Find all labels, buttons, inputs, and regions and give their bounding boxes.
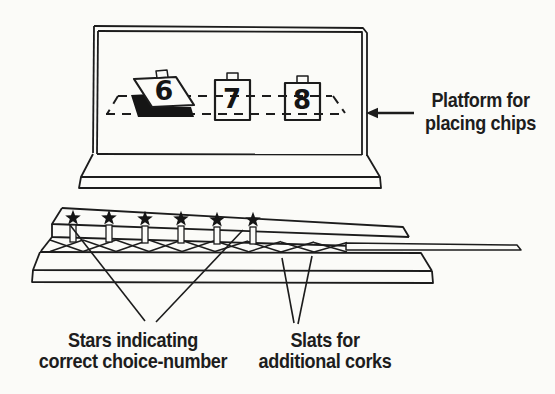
base-board <box>32 252 433 283</box>
star-icon <box>173 211 189 226</box>
card-digit-7: 7 <box>223 84 241 114</box>
star-icon <box>101 210 117 225</box>
cork-slat <box>346 243 521 250</box>
platform-label-line2: placing chips <box>418 111 543 134</box>
star-icon <box>209 212 225 227</box>
slats-leader-line <box>298 256 312 324</box>
figure-canvas: 6 7 8 <box>0 0 555 394</box>
stars-label-line1: Stars indicating <box>31 329 236 350</box>
slats-leader-line <box>282 258 294 323</box>
star-peg <box>142 226 148 243</box>
card-digit-6: 6 <box>155 75 174 106</box>
stars-label-line2: correct choice-number <box>31 350 236 371</box>
number-card-6: 6 <box>131 70 194 117</box>
platform-label-line1: Platform for <box>418 88 543 111</box>
stars-label: Stars indicating correct choice-number <box>31 329 236 371</box>
star-icon <box>65 210 81 225</box>
star-peg <box>178 226 184 243</box>
star-icon <box>245 212 261 227</box>
card-digit-8: 8 <box>293 85 311 115</box>
platform-pointer-arrow-icon <box>366 108 414 118</box>
slats-label-line1: Slats for <box>255 329 394 350</box>
star-peg <box>250 227 256 244</box>
slats-label-line2: additional corks <box>255 350 394 371</box>
panel-pedestal <box>79 154 381 188</box>
slats-label: Slats for additional corks <box>255 329 394 371</box>
star-peg <box>214 227 220 244</box>
star-peg <box>106 225 112 242</box>
platform-label: Platform for placing chips <box>418 88 543 134</box>
